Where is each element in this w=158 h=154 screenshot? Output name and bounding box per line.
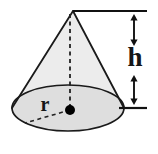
height-label: h xyxy=(127,42,142,72)
cone-figure: h r xyxy=(0,0,158,154)
cone-diagram-canvas: h r xyxy=(0,0,158,154)
radius-label: r xyxy=(41,93,50,115)
base-center-dot xyxy=(65,105,75,115)
